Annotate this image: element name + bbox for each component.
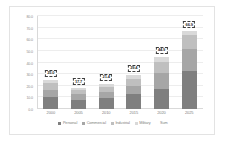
- bar-segment-personal[interactable]: [71, 100, 86, 109]
- x-axis-tick-label: 2020: [157, 111, 166, 115]
- bar-segment-industrial[interactable]: [182, 35, 197, 49]
- legend-label: Military: [139, 122, 150, 126]
- bar-segment-commercial[interactable]: [182, 49, 197, 70]
- bar-segment-commercial[interactable]: [126, 86, 141, 95]
- x-axis-tick-label: 2015: [130, 111, 139, 115]
- bar-group[interactable]: [182, 31, 197, 109]
- chart-card: 80.070.060.050.040.030.020.010.00.0 25.0…: [9, 6, 215, 135]
- bar-series-container: 25.017.721.429.444.966.9: [37, 16, 203, 109]
- legend-swatch-icon: [111, 122, 114, 125]
- chart-legend: PersonalCommercialIndustrialMilitarySum: [10, 122, 216, 126]
- bar-segment-personal[interactable]: [182, 71, 197, 109]
- bar-segment-commercial[interactable]: [43, 90, 58, 98]
- legend-swatch-icon: [82, 122, 85, 125]
- bar-segment-industrial[interactable]: [154, 62, 169, 73]
- bar-segment-personal[interactable]: [43, 97, 58, 109]
- bar-group[interactable]: [154, 57, 169, 109]
- bar-group[interactable]: [126, 75, 141, 109]
- sum-data-label: 66.9: [183, 21, 195, 28]
- bar-group[interactable]: [71, 88, 86, 109]
- legend-swatch-icon: [58, 122, 61, 125]
- plot-area: 25.017.721.429.444.966.9: [37, 16, 203, 109]
- legend-item-commercial[interactable]: Commercial: [82, 122, 106, 126]
- legend-item-military[interactable]: Military: [135, 122, 151, 126]
- sum-data-label: 29.4: [128, 65, 140, 72]
- legend-label: Personal: [63, 122, 77, 126]
- legend-label: Commercial: [87, 122, 106, 126]
- legend-item-personal[interactable]: Personal: [58, 122, 77, 126]
- x-axis-tick-label: 2000: [47, 111, 56, 115]
- legend-swatch-icon: [135, 122, 138, 125]
- x-axis-tick-label: 2010: [102, 111, 111, 115]
- legend-item-industrial[interactable]: Industrial: [111, 122, 130, 126]
- x-axis-tick-labels: 200020052010201520202025: [37, 111, 203, 120]
- x-axis-tick-label: 2025: [185, 111, 194, 115]
- bar-segment-commercial[interactable]: [154, 73, 169, 89]
- legend-label: Industrial: [115, 122, 129, 126]
- legend-label: Sum: [160, 122, 168, 126]
- sum-data-label: 17.7: [72, 78, 84, 85]
- bar-segment-industrial[interactable]: [43, 83, 58, 90]
- sum-data-label: 25.0: [45, 70, 57, 77]
- bar-segment-personal[interactable]: [99, 98, 114, 109]
- bar-segment-personal[interactable]: [126, 94, 141, 109]
- bar-group[interactable]: [43, 80, 58, 109]
- sum-data-label: 21.4: [100, 74, 112, 81]
- bar-group[interactable]: [99, 84, 114, 109]
- bar-segment-personal[interactable]: [154, 89, 169, 109]
- legend-item-sum[interactable]: Sum: [156, 122, 168, 126]
- legend-swatch-icon: [156, 122, 159, 125]
- y-axis-tick-labels: 80.070.060.050.040.030.020.010.00.0: [10, 16, 35, 109]
- sum-data-label: 44.9: [155, 47, 167, 54]
- x-axis-tick-label: 2005: [74, 111, 83, 115]
